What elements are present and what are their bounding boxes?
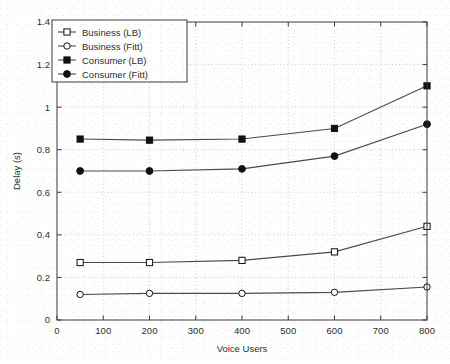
y-tick-label: 0.8 bbox=[37, 144, 50, 155]
data-point bbox=[331, 289, 337, 295]
data-point bbox=[77, 136, 83, 142]
data-point bbox=[146, 137, 152, 143]
x-tick-label: 400 bbox=[234, 325, 250, 336]
legend-marker bbox=[64, 43, 70, 49]
x-tick-label: 300 bbox=[188, 325, 204, 336]
x-tick-label: 0 bbox=[54, 325, 59, 336]
x-tick-label: 800 bbox=[419, 325, 435, 336]
data-point bbox=[331, 125, 337, 131]
x-axis-label: Voice Users bbox=[217, 343, 268, 354]
data-point bbox=[239, 165, 246, 172]
data-point bbox=[239, 290, 245, 296]
y-tick-label: 0.4 bbox=[37, 229, 50, 240]
chart-figure: 0100200300400500600700800 00.20.40.60.81… bbox=[0, 0, 450, 364]
data-point bbox=[146, 168, 153, 175]
x-tick-label: 200 bbox=[142, 325, 158, 336]
y-axis-label: Delay (s) bbox=[11, 152, 22, 190]
data-point bbox=[239, 257, 245, 263]
legend-label: Consumer (Fitt) bbox=[82, 69, 148, 80]
x-tick-label: 600 bbox=[327, 325, 343, 336]
y-tick-label: 0 bbox=[45, 314, 50, 325]
y-tick-label: 0.6 bbox=[37, 187, 50, 198]
data-point bbox=[77, 291, 83, 297]
y-tick-label: 1.4 bbox=[37, 16, 50, 27]
data-point bbox=[77, 168, 84, 175]
legend-label: Consumer (LB) bbox=[82, 55, 146, 66]
data-point bbox=[331, 249, 337, 255]
legend-marker bbox=[64, 29, 70, 35]
legend-label: Business (Fitt) bbox=[82, 41, 143, 52]
x-tick-label: 700 bbox=[373, 325, 389, 336]
line-chart: 0100200300400500600700800 00.20.40.60.81… bbox=[0, 0, 450, 364]
legend-marker bbox=[64, 57, 70, 63]
y-tick-label: 1.2 bbox=[37, 59, 50, 70]
y-tick-label: 1 bbox=[45, 102, 50, 113]
x-tick-label: 100 bbox=[95, 325, 111, 336]
y-tick-label: 0.2 bbox=[37, 272, 50, 283]
data-point bbox=[77, 259, 83, 265]
data-point bbox=[239, 136, 245, 142]
legend-marker bbox=[64, 71, 71, 78]
legend-label: Business (LB) bbox=[82, 27, 141, 38]
chart-legend: Business (LB)Business (Fitt)Consumer (LB… bbox=[52, 20, 187, 82]
data-point bbox=[146, 290, 152, 296]
x-tick-label: 500 bbox=[280, 325, 296, 336]
data-point bbox=[146, 259, 152, 265]
data-point bbox=[331, 153, 338, 160]
